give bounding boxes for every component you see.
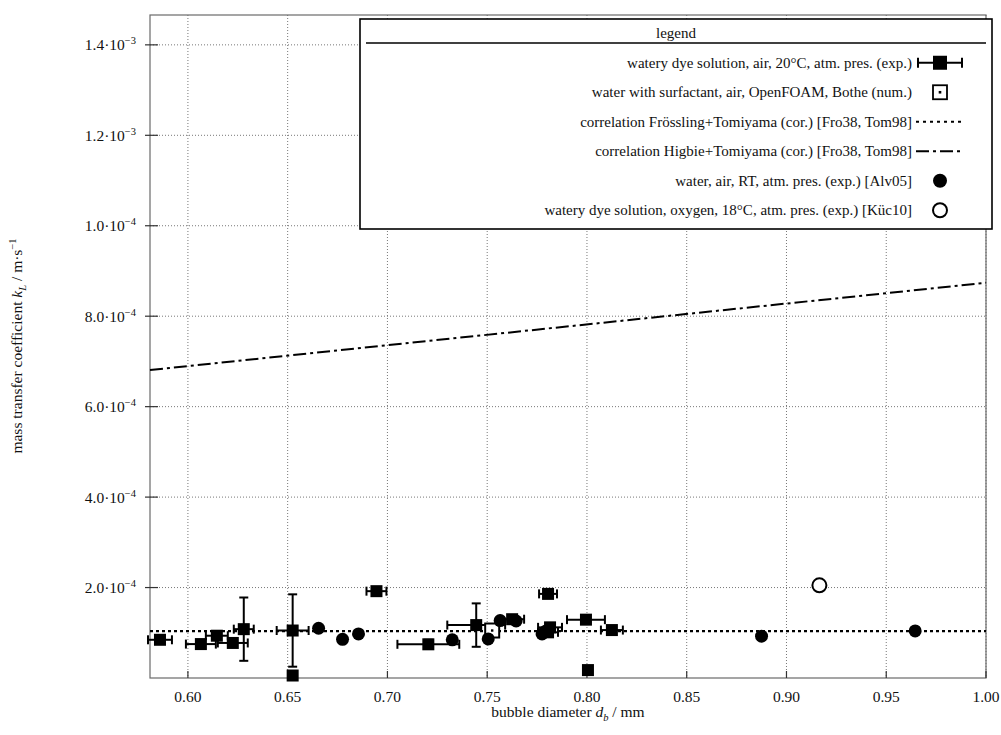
data-point bbox=[812, 578, 826, 592]
data-point bbox=[482, 632, 495, 645]
open-square-dot-icon bbox=[933, 85, 947, 99]
x-tick-label: 0.95 bbox=[873, 688, 900, 705]
filled-circle-icon bbox=[933, 174, 947, 188]
data-point bbox=[446, 633, 459, 646]
svg-text:mass transfer coefficient kL /: mass transfer coefficient kL / m·s−1 bbox=[7, 238, 28, 453]
y-axis-title: mass transfer coefficient kL / m·s−1 bbox=[7, 238, 28, 453]
data-point bbox=[510, 615, 523, 628]
legend-item[interactable]: correlation Higbie+Tomiyama (cor.) [Fro3… bbox=[595, 143, 964, 160]
open-circle-icon bbox=[933, 203, 947, 217]
legend-item-label: water, air, RT, atm. pres. (exp.) [Alv05… bbox=[675, 173, 912, 190]
legend-title: legend bbox=[656, 25, 696, 41]
data-point bbox=[540, 624, 553, 637]
legend-item-label: watery dye solution, air, 20°C, atm. pre… bbox=[627, 55, 912, 72]
data-point bbox=[287, 670, 299, 682]
open-circle-series bbox=[812, 578, 826, 592]
legend-item[interactable]: water with surfactant, air, OpenFOAM, Bo… bbox=[592, 84, 947, 101]
legend-item-label: watery dye solution, oxygen, 18°C, atm. … bbox=[544, 202, 912, 219]
data-point bbox=[494, 614, 507, 627]
x-tick-label: 0.60 bbox=[174, 688, 201, 705]
legend-item[interactable]: watery dye solution, air, 20°C, atm. pre… bbox=[627, 55, 962, 72]
x-tick-label: 0.65 bbox=[274, 688, 301, 705]
chart-svg: 0.600.650.700.750.800.850.900.951.00 2.0… bbox=[0, 0, 1001, 735]
data-point bbox=[755, 630, 768, 643]
x-tick-label: 0.70 bbox=[374, 688, 401, 705]
legend-item-label: correlation Higbie+Tomiyama (cor.) [Fro3… bbox=[595, 143, 912, 160]
legend-item[interactable]: correlation Frössling+Tomiyama (cor.) [F… bbox=[580, 114, 964, 131]
legend-item-label: water with surfactant, air, OpenFOAM, Bo… bbox=[592, 84, 912, 101]
x-tick-label: 0.90 bbox=[773, 688, 800, 705]
legend: legendwatery dye solution, air, 20°C, at… bbox=[360, 19, 992, 229]
legend-item[interactable]: water, air, RT, atm. pres. (exp.) [Alv05… bbox=[675, 173, 947, 190]
data-point bbox=[352, 627, 365, 640]
data-point bbox=[336, 633, 349, 646]
data-point bbox=[582, 664, 594, 676]
legend-item-label: correlation Frössling+Tomiyama (cor.) [F… bbox=[580, 114, 912, 131]
legend-item[interactable]: watery dye solution, oxygen, 18°C, atm. … bbox=[544, 202, 947, 219]
x-tick-label: 1.00 bbox=[972, 688, 999, 705]
data-point bbox=[909, 624, 922, 637]
x-tick-label: 0.85 bbox=[673, 688, 700, 705]
data-point bbox=[312, 622, 325, 635]
chart-figure: 0.600.650.700.750.800.850.900.951.00 2.0… bbox=[0, 0, 1001, 735]
